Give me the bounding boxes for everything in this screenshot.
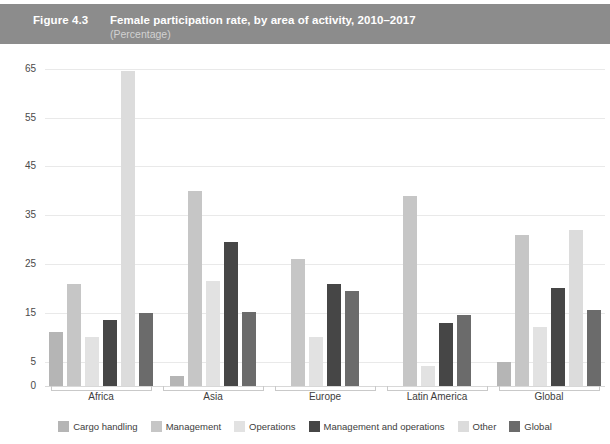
category-label-global: Global [499, 391, 599, 403]
bar [85, 337, 99, 386]
legend-swatch-icon [58, 421, 69, 432]
legend-label: Global [524, 421, 551, 432]
legend-swatch-icon [151, 421, 162, 432]
category-tick [375, 386, 376, 391]
bar [188, 191, 202, 386]
y-axis-tick-label: 25 [0, 259, 36, 269]
bar [327, 284, 341, 386]
y-axis-tick-label: 0 [0, 381, 36, 391]
bar [345, 291, 359, 386]
bar [170, 376, 184, 386]
bar [291, 259, 305, 386]
bar [49, 332, 63, 386]
bar [139, 313, 153, 386]
legend-item[interactable]: Management [151, 421, 221, 432]
y-axis-tick-label: 65 [0, 64, 36, 74]
category-tick [487, 386, 488, 391]
bar [403, 196, 417, 386]
category-label-asia: Asia [163, 391, 263, 403]
legend-label: Operations [249, 421, 295, 432]
legend-item[interactable]: Other [458, 421, 497, 432]
gridline [45, 69, 605, 70]
legend-item[interactable]: Management and operations [309, 421, 445, 432]
bar [457, 315, 471, 386]
bar [224, 242, 238, 386]
category-tick [151, 386, 152, 391]
legend-label: Cargo handling [73, 421, 137, 432]
legend-swatch-icon [234, 421, 245, 432]
y-axis-tick-label: 35 [0, 210, 36, 220]
bar [439, 323, 453, 386]
category-label-africa: Africa [51, 391, 151, 403]
bar [587, 310, 601, 386]
chart-plot-area: 05152535455565 AfricaAsiaEuropeLatin Ame… [0, 0, 610, 444]
category-label-europe: Europe [275, 391, 375, 403]
bar [242, 312, 256, 386]
chart-legend: Cargo handlingManagementOperationsManage… [0, 416, 610, 436]
legend-item[interactable]: Global [509, 421, 551, 432]
legend-swatch-icon [509, 421, 520, 432]
legend-swatch-icon [309, 421, 320, 432]
bar [309, 337, 323, 386]
bar [206, 281, 220, 386]
category-tick [599, 386, 600, 391]
y-axis-tick-label: 15 [0, 308, 36, 318]
bar [569, 230, 583, 386]
legend-item[interactable]: Operations [234, 421, 295, 432]
bar [497, 362, 511, 386]
bar [515, 235, 529, 386]
legend-swatch-icon [458, 421, 469, 432]
y-axis-tick-label: 45 [0, 161, 36, 171]
legend-label: Other [473, 421, 497, 432]
y-axis-tick-label: 5 [0, 357, 36, 367]
legend-label: Management [166, 421, 221, 432]
bar [103, 320, 117, 386]
bar [67, 284, 81, 386]
bar [551, 288, 565, 386]
legend-label: Management and operations [324, 421, 445, 432]
x-axis-baseline [45, 386, 605, 387]
bar [421, 366, 435, 386]
category-label-latin-america: Latin America [387, 391, 487, 403]
legend-item[interactable]: Cargo handling [58, 421, 137, 432]
bar [533, 327, 547, 386]
bar [121, 71, 135, 386]
y-axis-tick-label: 55 [0, 113, 36, 123]
category-tick [263, 386, 264, 391]
